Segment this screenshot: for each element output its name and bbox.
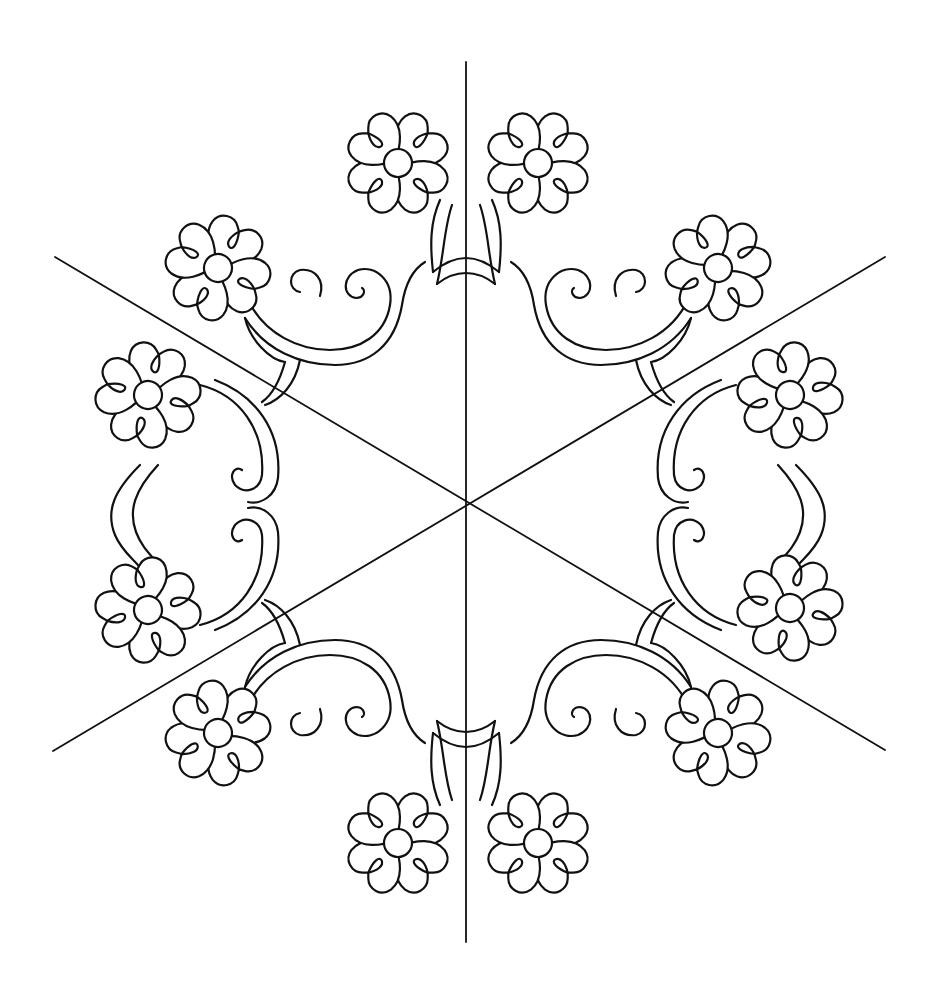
flower-icon bbox=[149, 664, 286, 801]
flower-icon bbox=[729, 334, 852, 457]
flower-icon bbox=[467, 772, 609, 914]
guide-lines bbox=[53, 62, 885, 942]
scroll-band-upper-right bbox=[546, 300, 688, 350]
flower-icon bbox=[149, 199, 286, 336]
flower-icon bbox=[649, 199, 786, 336]
quilt-pattern-canvas bbox=[0, 0, 934, 997]
scroll-band-lower-right bbox=[546, 655, 688, 705]
scroll-band-right bbox=[794, 465, 825, 570]
scroll-band-left bbox=[111, 465, 142, 570]
flower-icon bbox=[729, 547, 852, 670]
flower-icon bbox=[87, 549, 210, 672]
flower-icon bbox=[87, 334, 210, 457]
flower-icon bbox=[467, 92, 609, 234]
scroll-band-upper-left bbox=[248, 300, 390, 350]
flower-icon bbox=[649, 664, 786, 801]
flower-icon bbox=[327, 92, 469, 234]
flower-icon bbox=[327, 772, 469, 914]
scroll-band-lower-left bbox=[248, 655, 390, 705]
